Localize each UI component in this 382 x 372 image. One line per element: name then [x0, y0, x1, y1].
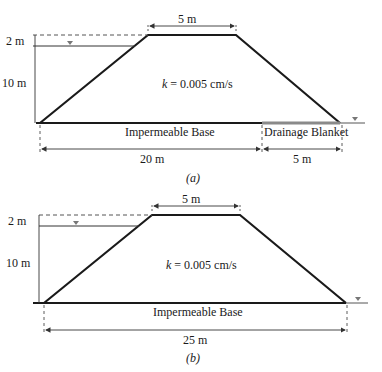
caption-b: (b) — [186, 352, 200, 364]
drainage-blanket-label: Drainage Blanket — [264, 126, 348, 138]
crest-width-label-b: 5 m — [182, 193, 200, 205]
caption-a: (a) — [186, 172, 200, 184]
base-length-label-a: 20 m — [140, 153, 164, 165]
water-level-icon-tail-a — [352, 117, 358, 121]
water-level-icon-b — [73, 221, 79, 225]
base-length-label-b: 25 m — [183, 334, 207, 346]
freeboard-label-a: 2 m — [6, 35, 24, 47]
base-label-a: Impermeable Base — [125, 126, 215, 138]
drain-length-label: 5 m — [293, 153, 311, 165]
permeability-label-a: k = 0.005 cm/s — [162, 78, 233, 90]
base-label-b: Impermeable Base — [153, 306, 243, 318]
permeability-label-b: k = 0.005 cm/s — [166, 259, 237, 271]
crest-width-label-a: 5 m — [178, 13, 196, 25]
water-depth-label-a: 10 m — [2, 77, 26, 89]
water-depth-label-b: 10 m — [6, 257, 30, 269]
water-level-icon-a — [67, 41, 73, 45]
freeboard-label-b: 2 m — [8, 215, 26, 227]
water-level-icon-tail-b — [355, 297, 361, 301]
